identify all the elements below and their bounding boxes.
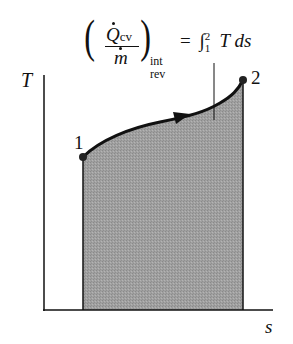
shaded-area-heat-transfer	[83, 80, 243, 310]
y-axis-label: T	[21, 70, 32, 90]
heat-transfer-equation: ( Qcv m ) int rev = ∫21 T ds	[86, 18, 286, 78]
t-s-diagram: T s 1 2 ( Qcv m ) int rev = ∫21 T ds	[0, 0, 293, 344]
lower-limit: 1	[205, 42, 211, 54]
outer-subscript-rev: rev	[150, 68, 165, 80]
state-label-1: 1	[74, 133, 84, 152]
integral-limits: 21	[205, 30, 215, 50]
numerator-dot	[112, 22, 115, 25]
x-axis-label: s	[265, 317, 272, 336]
equation-rhs: = ∫21 T ds	[180, 30, 251, 52]
outer-subscript-int: int	[150, 55, 163, 67]
equals-sign: =	[180, 30, 191, 51]
numerator-subscript: cv	[120, 29, 132, 44]
lhs-denominator: m	[114, 47, 128, 69]
left-paren: (	[84, 14, 95, 60]
lhs-numerator: Qcv	[106, 24, 132, 46]
integrand: T ds	[219, 30, 251, 51]
state-point-1	[79, 153, 87, 161]
numerator-symbol: Q	[106, 24, 120, 45]
denominator-dot	[119, 47, 122, 50]
upper-limit: 2	[205, 30, 211, 42]
